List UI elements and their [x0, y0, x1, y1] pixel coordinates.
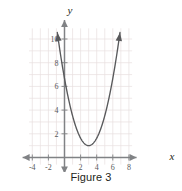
figure-caption: Figure 3 — [0, 171, 182, 183]
y-tick-label: 8 — [55, 59, 59, 68]
gridlines — [29, 28, 132, 164]
y-tick-label: 2 — [55, 130, 59, 139]
axes — [23, 20, 137, 172]
y-tick-label: 6 — [55, 82, 59, 91]
y-axis-label: y — [67, 4, 73, 16]
coordinate-plane: -4-22468 246810 x y — [0, 0, 182, 172]
graph-svg: -4-22468 246810 x y — [0, 0, 182, 172]
x-axis-label: x — [169, 150, 175, 162]
figure-3-container: -4-22468 246810 x y Figure 3 — [0, 0, 182, 191]
y-tick-label: 4 — [55, 106, 59, 115]
